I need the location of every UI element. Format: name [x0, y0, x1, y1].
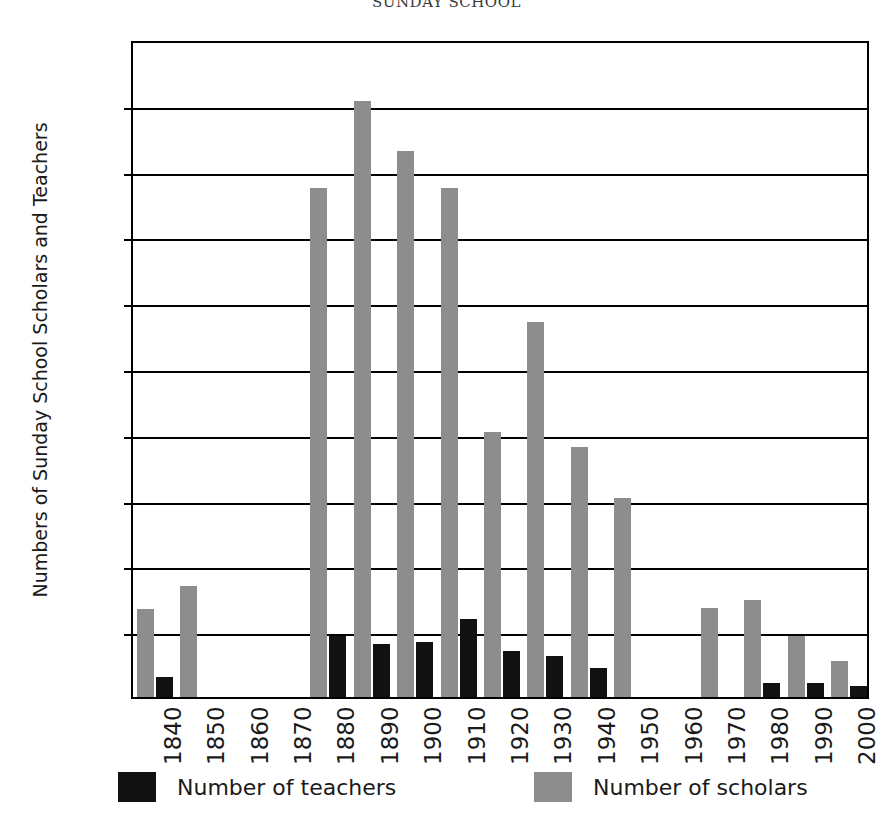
legend-item-teachers[interactable]: Number of teachers [118, 772, 396, 802]
bar-group-1990 [784, 43, 827, 697]
y-tick-300 [124, 305, 132, 307]
legend-item-scholars[interactable]: Number of scholars [534, 772, 808, 802]
x-tick-label-1920: 1920 [509, 695, 532, 765]
bar-group-1890 [350, 43, 393, 697]
bar-teachers-1900 [416, 642, 433, 697]
x-tick-label-1980: 1980 [769, 695, 792, 765]
bar-scholars-1970 [701, 608, 718, 697]
legend-label-scholars: Number of scholars [593, 775, 808, 800]
bar-group-1860 [220, 43, 263, 697]
chart-title: SUNDAY SCHOOL [0, 0, 893, 11]
x-tick-label-1900: 1900 [422, 695, 445, 765]
plot-area [131, 41, 869, 699]
bar-group-1840 [133, 43, 176, 697]
x-tick-label-1840: 1840 [162, 695, 185, 765]
y-tick-200 [124, 437, 132, 439]
bar-scholars-1990 [788, 636, 805, 697]
bar-scholars-1950 [614, 498, 631, 697]
x-tick-label-1860: 1860 [249, 695, 272, 765]
bar-teachers-1920 [503, 651, 520, 697]
bar-group-1870 [263, 43, 306, 697]
bar-scholars-1890 [354, 101, 371, 697]
x-tick-label-2000: 2000 [856, 695, 879, 765]
x-tick-label-1870: 1870 [292, 695, 315, 765]
y-tick-250 [124, 371, 132, 373]
bar-scholars-1920 [484, 432, 501, 697]
bar-scholars-1900 [397, 151, 414, 697]
bar-scholars-2000 [831, 661, 848, 697]
bar-group-1980 [741, 43, 784, 697]
y-tick-400 [124, 174, 132, 176]
bar-group-2000 [828, 43, 871, 697]
bar-group-1880 [307, 43, 350, 697]
bar-group-1970 [697, 43, 740, 697]
x-tick-label-1960: 1960 [683, 695, 706, 765]
x-tick-label-1930: 1930 [552, 695, 575, 765]
bar-group-1900 [393, 43, 436, 697]
bar-scholars-1840 [137, 609, 154, 697]
bar-group-1950 [611, 43, 654, 697]
x-tick-label-1890: 1890 [379, 695, 402, 765]
bar-scholars-1910 [441, 188, 458, 697]
y-tick-350 [124, 239, 132, 241]
bars-layer [133, 43, 867, 697]
bar-group-1930 [524, 43, 567, 697]
bar-scholars-1850 [180, 586, 197, 697]
x-tick-label-1850: 1850 [205, 695, 228, 765]
bar-scholars-1980 [744, 600, 761, 697]
bar-group-1850 [176, 43, 219, 697]
y-tick-100 [124, 568, 132, 570]
x-tick-label-1950: 1950 [639, 695, 662, 765]
y-tick-50 [124, 634, 132, 636]
bar-teachers-1940 [590, 668, 607, 697]
legend-swatch-scholars-icon [534, 772, 572, 802]
x-tick-label-1880: 1880 [335, 695, 358, 765]
bar-group-1910 [437, 43, 480, 697]
legend-label-teachers: Number of teachers [177, 775, 396, 800]
bar-group-1940 [567, 43, 610, 697]
bar-scholars-1880 [310, 188, 327, 697]
bar-teachers-1890 [373, 644, 390, 697]
bar-scholars-1930 [527, 322, 544, 697]
legend-swatch-teachers-icon [118, 772, 156, 802]
x-tick-label-1910: 1910 [466, 695, 489, 765]
sunday-school-bar-chart: SUNDAY SCHOOL Numbers of Sunday School S… [0, 0, 893, 818]
bar-teachers-1930 [546, 656, 563, 697]
y-tick-150 [124, 503, 132, 505]
chart-legend: Number of teachers Number of scholars [0, 772, 893, 812]
bar-teachers-1880 [329, 636, 346, 697]
x-axis-tick-labels: 1840185018601870188018901900191019201930… [131, 701, 869, 771]
bar-teachers-1910 [460, 619, 477, 697]
x-tick-label-1970: 1970 [726, 695, 749, 765]
bar-group-1920 [480, 43, 523, 697]
x-tick-label-1940: 1940 [596, 695, 619, 765]
bar-group-1960 [654, 43, 697, 697]
x-tick-label-1990: 1990 [813, 695, 836, 765]
y-tick-450 [124, 108, 132, 110]
bar-scholars-1940 [571, 447, 588, 697]
